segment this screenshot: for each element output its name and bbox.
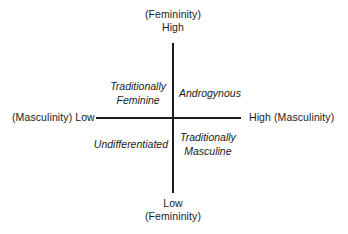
axis-top-level: High (0, 21, 346, 34)
axis-label-top: (Femininity) High (0, 8, 348, 34)
horizontal-axis-line (96, 117, 241, 119)
quadrant-label-androgynous: Androgynous (179, 86, 241, 100)
axis-label-right: High (Masculinity) (249, 111, 334, 124)
quadrant-br-line2: Masculine (180, 144, 236, 158)
quadrant-bl-line1: Undifferentiated (94, 138, 168, 150)
quadrant-br-line1: Traditionally (180, 131, 236, 143)
quadrant-label-undifferentiated: Undifferentiated (94, 137, 168, 151)
quadrant-tr-line1: Androgynous (179, 87, 241, 99)
axis-top-construct: (Femininity) (145, 8, 201, 20)
quadrant-label-traditionally-feminine: Traditionally Feminine (110, 79, 166, 107)
axis-label-bottom: Low (Femininity) (0, 197, 348, 223)
axis-bottom-level: Low (163, 197, 183, 209)
gender-role-quadrant-diagram: (Femininity) High Low (Femininity) (Masc… (0, 0, 348, 234)
axis-bottom-construct: (Femininity) (0, 210, 346, 223)
axis-label-left: (Masculinity) Low (12, 111, 95, 124)
quadrant-tl-line2: Feminine (110, 93, 166, 107)
quadrant-label-traditionally-masculine: Traditionally Masculine (180, 130, 236, 158)
quadrant-tl-line1: Traditionally (110, 80, 166, 92)
